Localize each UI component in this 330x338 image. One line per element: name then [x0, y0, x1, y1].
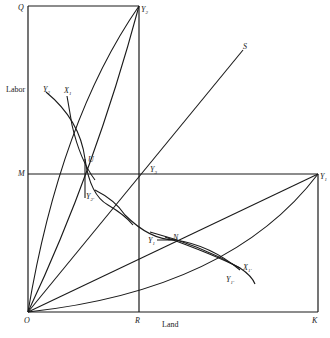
label-u: U	[88, 155, 95, 164]
label-curve-x1: X1	[63, 86, 71, 96]
label-r: R	[134, 316, 140, 325]
curve-o-y1-upper	[28, 174, 318, 312]
label-curve-x1-prime: X1′	[242, 263, 252, 273]
label-y2: Y2	[141, 5, 148, 15]
label-q: Q	[18, 3, 24, 12]
label-m: M	[17, 169, 26, 178]
label-curve-y1-prime: Y1′	[226, 275, 235, 285]
label-land: Land	[162, 320, 178, 329]
label-curve-y1: Y1	[148, 236, 155, 246]
label-curve-y2: Y2	[43, 85, 50, 95]
label-y1: Y1	[320, 172, 327, 182]
label-k: K	[311, 316, 318, 325]
label-curve-y2-prime: Y2′	[86, 192, 95, 202]
edgeworth-box-diagram: Q Y2 Labor M Y3 Y1 S U N O R K Land Y2 X…	[0, 0, 330, 338]
label-o: O	[24, 316, 30, 325]
isoquant-x1	[67, 96, 95, 180]
ray-o-s	[28, 50, 243, 312]
label-y3: Y3	[150, 165, 157, 175]
label-n: N	[172, 233, 179, 242]
label-s: S	[243, 42, 247, 51]
label-labor: Labor	[6, 85, 25, 94]
